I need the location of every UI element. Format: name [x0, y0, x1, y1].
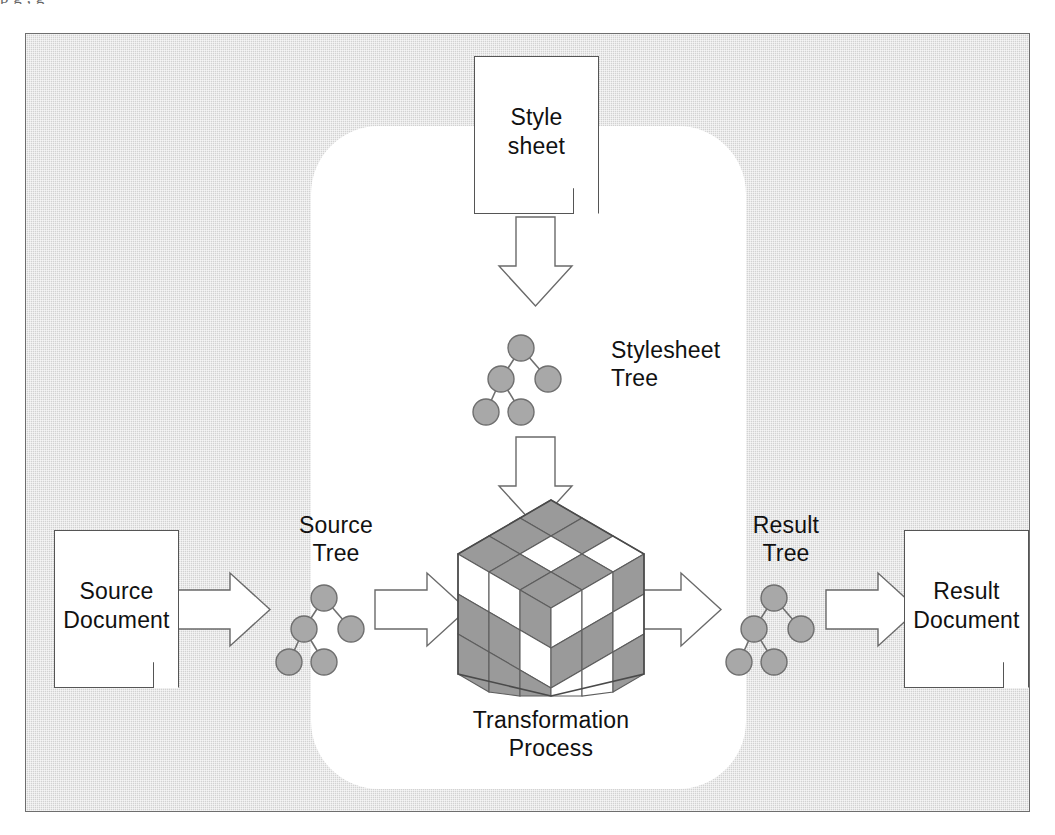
stylesheet-document: Style sheet: [474, 56, 599, 214]
tree-node-leaf-a: [473, 399, 499, 425]
result-tree-label: Result Tree: [726, 511, 846, 567]
tree-node-right: [338, 616, 364, 642]
tree-node-leaf-b: [311, 649, 337, 675]
arrow-stylesheet-doc-to-stylesheet-tree: [499, 217, 572, 306]
tree-node-left: [291, 616, 317, 642]
tree-node-left: [741, 616, 767, 642]
tree-node-right: [535, 366, 561, 392]
stylesheet-tree: [481, 330, 596, 434]
page-fold-corner-icon: [573, 188, 599, 214]
tree-node-root: [311, 585, 337, 611]
stylesheet-document-label: Style sheet: [508, 103, 565, 168]
transformation-cube: [458, 496, 644, 696]
source-document: Source Document: [54, 530, 179, 688]
cut-off-text-above-figure: p g , g: [0, 0, 1055, 4]
arrow-source-doc-to-source-tree: [178, 573, 270, 646]
tree-node-leaf-a: [726, 649, 752, 675]
tree-node-leaf-a: [276, 649, 302, 675]
result-tree: [734, 580, 849, 684]
figure-frame: Style sheet Stylesheet Tree Source Docum…: [25, 33, 1030, 812]
tree-node-right: [788, 616, 814, 642]
source-document-label: Source Document: [63, 577, 169, 642]
tree-node-leaf-b: [761, 649, 787, 675]
stylesheet-tree-label: Stylesheet Tree: [611, 336, 791, 392]
result-document-label: Result Document: [913, 577, 1019, 642]
source-tree-label: Source Tree: [276, 511, 396, 567]
tree-node-leaf-b: [508, 399, 534, 425]
transformation-process-label: Transformation Process: [401, 706, 701, 762]
tree-node-left: [488, 366, 514, 392]
tree-node-root: [761, 585, 787, 611]
result-document: Result Document: [904, 530, 1029, 688]
page-fold-corner-icon: [1003, 662, 1029, 688]
page-fold-corner-icon: [153, 662, 179, 688]
tree-node-root: [508, 335, 534, 361]
source-tree: [284, 580, 399, 684]
